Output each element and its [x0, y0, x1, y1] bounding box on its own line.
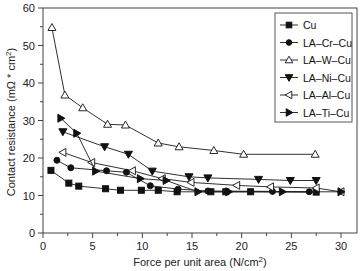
legend-label: LA–Al–Cu [303, 89, 350, 101]
legend-label: LA–Ti–Cu [303, 107, 349, 119]
legend-label: Cu [303, 19, 317, 31]
x-tick-label: 15 [186, 240, 198, 252]
contact-resistance-chart: 0102030405060 051015202530 CuLA–Cr–CuLA–… [0, 0, 363, 271]
x-tick-label: 10 [136, 240, 148, 252]
x-tick-label: 0 [40, 240, 46, 252]
legend: CuLA–Cr–CuLA–W–CuLA–Ni–CuLA–Al–CuLA–Ti–C… [275, 13, 352, 122]
y-tick-label: 20 [23, 152, 35, 164]
x-tick-label: 25 [285, 240, 297, 252]
y-tick-label: 50 [23, 40, 35, 52]
y-tick-label: 60 [23, 2, 35, 14]
y-tick-label: 10 [23, 190, 35, 202]
y-tick-label: 30 [23, 115, 35, 127]
legend-label: LA–Ni–Cu [303, 72, 351, 84]
y-tick-label: 40 [23, 77, 35, 89]
x-tick-label: 5 [90, 240, 96, 252]
y-axis: 0102030405060 [23, 2, 43, 239]
x-axis-title: Force per unit area (N/cm2) [133, 255, 266, 268]
y-axis-title: Contact resistance (mΩ * cm2) [4, 48, 17, 196]
legend-label: LA–Cr–Cu [303, 37, 352, 49]
legend-label: LA–W–Cu [303, 54, 351, 66]
series-la-ni-cu [59, 129, 320, 185]
y-tick-label: 0 [29, 227, 35, 239]
x-axis: 051015202530 [40, 233, 347, 252]
x-tick-label: 30 [335, 240, 347, 252]
x-tick-label: 20 [236, 240, 248, 252]
